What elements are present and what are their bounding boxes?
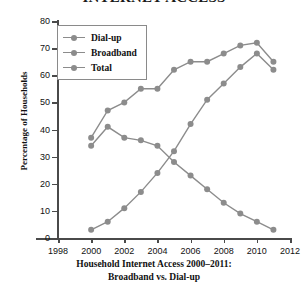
data-point xyxy=(204,186,210,192)
data-point xyxy=(254,51,260,57)
x-tick-label: 2000 xyxy=(81,246,101,256)
data-point xyxy=(270,227,276,233)
caption-line-2: Broadband vs. Dial-up xyxy=(0,271,308,284)
x-tick-label: 2008 xyxy=(214,246,234,256)
chart-title-clipped: INTERNET ACCESS xyxy=(0,0,308,8)
data-point xyxy=(171,67,177,73)
data-point xyxy=(88,135,94,141)
data-point xyxy=(138,86,144,92)
y-tick-label: 40 xyxy=(40,125,50,135)
data-point xyxy=(221,80,227,86)
legend-item-broadband[interactable]: Broadband xyxy=(63,45,137,60)
data-point xyxy=(138,189,144,195)
data-point xyxy=(105,124,111,130)
x-tick xyxy=(257,238,259,243)
x-tick xyxy=(124,238,126,243)
legend-marker-icon xyxy=(63,63,85,73)
x-tick-label: 2004 xyxy=(147,246,167,256)
y-tick-label: 30 xyxy=(40,152,50,162)
legend-marker-icon xyxy=(63,33,85,43)
legend-label: Broadband xyxy=(91,48,137,58)
data-point xyxy=(237,211,243,217)
data-point xyxy=(188,59,194,65)
y-tick-label: 10 xyxy=(40,206,50,216)
y-tick-label: 70 xyxy=(40,43,50,53)
data-point xyxy=(204,97,210,103)
y-tick-label: 80 xyxy=(40,16,50,26)
chart-figure: INTERNET ACCESS Percentage of Households… xyxy=(0,0,308,286)
x-tick xyxy=(224,238,226,243)
x-tick xyxy=(91,238,93,243)
x-tick-label: 2002 xyxy=(114,246,134,256)
data-point xyxy=(270,59,276,65)
caption-line-1: Household Internet Access 2000–2011: xyxy=(0,258,308,271)
data-point xyxy=(221,200,227,206)
legend-item-total[interactable]: Total xyxy=(63,60,137,75)
data-point xyxy=(171,148,177,154)
x-tick xyxy=(58,238,60,243)
chart-legend: Dial-upBroadbandTotal xyxy=(57,25,147,80)
data-point xyxy=(237,64,243,70)
data-point xyxy=(188,121,194,127)
data-point xyxy=(121,135,127,141)
data-point xyxy=(254,219,260,225)
data-point xyxy=(270,67,276,73)
data-point xyxy=(221,51,227,57)
y-tick-label: 20 xyxy=(40,179,50,189)
x-tick-label: 2010 xyxy=(247,246,267,256)
y-tick-label: 50 xyxy=(40,97,50,107)
x-tick-label: 2012 xyxy=(280,246,300,256)
data-point xyxy=(138,137,144,143)
data-point xyxy=(88,227,94,233)
data-point xyxy=(254,40,260,46)
data-point xyxy=(105,219,111,225)
chart-title-text: INTERNET ACCESS xyxy=(82,0,225,6)
data-point xyxy=(88,143,94,149)
legend-marker-icon xyxy=(63,48,85,58)
x-tick xyxy=(191,238,193,243)
legend-label: Total xyxy=(91,63,112,73)
chart-caption: Household Internet Access 2000–2011: Bro… xyxy=(0,258,308,284)
data-point xyxy=(154,170,160,176)
data-point xyxy=(204,59,210,65)
x-tick xyxy=(290,238,292,243)
data-point xyxy=(154,86,160,92)
legend-label: Dial-up xyxy=(91,33,122,43)
data-point xyxy=(105,108,111,114)
x-tick-label: 1998 xyxy=(48,246,68,256)
y-axis-title: Percentage of Households xyxy=(19,41,29,201)
data-point xyxy=(171,159,177,165)
x-tick-label: 2006 xyxy=(181,246,201,256)
legend-item-dial-up[interactable]: Dial-up xyxy=(63,30,137,45)
series-line-dial-up xyxy=(91,127,273,230)
y-tick-label: 0 xyxy=(45,233,50,243)
data-point xyxy=(237,42,243,48)
x-tick xyxy=(157,238,159,243)
x-axis-line xyxy=(36,238,292,240)
data-point xyxy=(188,173,194,179)
data-point xyxy=(154,143,160,149)
data-point xyxy=(121,205,127,211)
data-point xyxy=(121,99,127,105)
y-tick-label: 60 xyxy=(40,70,50,80)
